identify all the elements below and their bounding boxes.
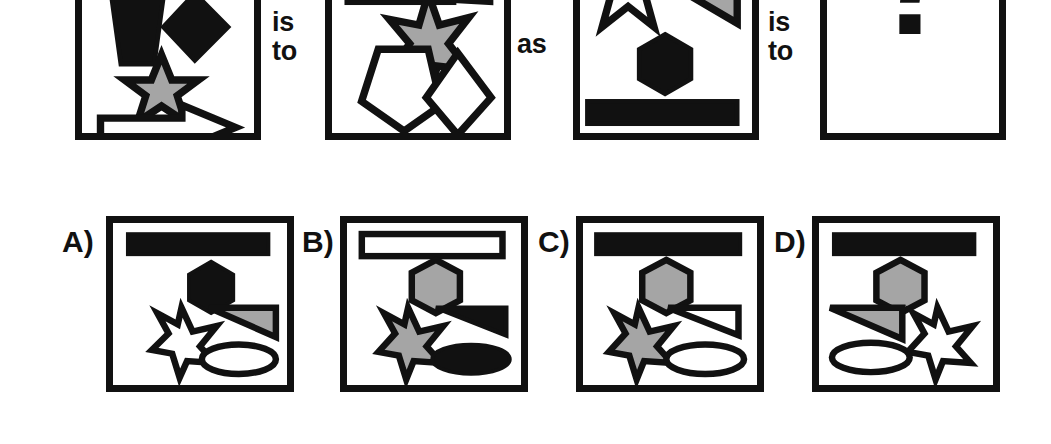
- analogy-panel-b: [325, 0, 511, 140]
- star-white-icon: [586, 0, 671, 27]
- option-a-shapes: [113, 223, 287, 385]
- bar-black-icon: [587, 101, 737, 123]
- option-c-panel[interactable]: [576, 216, 764, 392]
- bar-black-icon: [128, 234, 269, 254]
- question-mark-placeholder: ?: [827, 0, 999, 57]
- analogy-panel-b-shapes: [332, 0, 504, 133]
- ellipse-black-icon: [432, 345, 510, 374]
- triangle-black-icon: [436, 308, 506, 336]
- analogy-panel-a: [75, 0, 261, 140]
- ellipse-white-icon: [202, 345, 276, 374]
- ellipse-white-icon: [666, 345, 744, 374]
- option-b-panel[interactable]: [340, 216, 528, 392]
- triangle-gray-icon: [830, 308, 902, 339]
- relation-is-to-second: is to: [768, 8, 793, 66]
- pentagon-black-icon: [112, 0, 164, 64]
- analogy-panel-a-shapes: [82, 0, 254, 133]
- relation-is-to-first: is to: [272, 8, 297, 66]
- hexagon-gray-icon: [412, 260, 460, 313]
- option-b-label: B): [302, 225, 334, 259]
- analogy-panel-c: [573, 0, 759, 140]
- star-gray-icon: [609, 308, 674, 380]
- option-c-shapes: [583, 223, 757, 385]
- hexagon-black-icon: [639, 34, 691, 94]
- ellipse-white-icon: [832, 343, 910, 372]
- option-d-shapes: [819, 223, 993, 385]
- puzzle-stage: is to as is to ? A): [0, 0, 1051, 444]
- option-a-label: A): [62, 225, 94, 259]
- triangle-white-icon: [668, 308, 738, 336]
- star-white-icon: [908, 308, 973, 380]
- option-c-label: C): [538, 225, 570, 259]
- option-d-panel[interactable]: [812, 216, 1000, 392]
- triangle-gray-icon: [658, 0, 738, 23]
- bar-black-icon: [596, 234, 740, 254]
- analogy-panel-c-shapes: [580, 0, 752, 133]
- diamond-black-icon: [163, 0, 228, 60]
- option-d-label: D): [774, 225, 806, 259]
- bar-white-icon: [362, 234, 503, 256]
- analogy-panel-answer-slot: ?: [820, 0, 1006, 140]
- option-b-shapes: [347, 223, 521, 385]
- star-gray-icon: [378, 308, 443, 380]
- bar-black-icon: [834, 234, 975, 254]
- option-a-panel[interactable]: [106, 216, 294, 392]
- relation-as: as: [517, 30, 546, 59]
